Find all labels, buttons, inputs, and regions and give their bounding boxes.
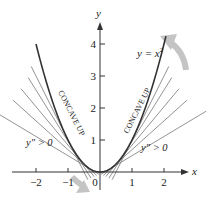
curved-arrow-up-right-icon — [160, 34, 186, 70]
x-tick-label: 2 — [161, 176, 167, 188]
x-tick-label: −1 — [62, 176, 74, 188]
x-tick-label: 0 — [92, 176, 98, 188]
right-second-derivative-label: y″ > 0 — [140, 142, 168, 153]
x-tick-label: −2 — [30, 176, 42, 188]
tangent-lines — [0, 66, 206, 179]
y-tick-label: 4 — [91, 38, 97, 50]
y-tick-label: 3 — [91, 70, 97, 82]
y-ticks: 1234 — [91, 38, 106, 146]
y-axis-arrow-icon — [97, 22, 103, 30]
x-axis-arrow-icon — [181, 169, 189, 175]
x-axis-label: x — [191, 165, 197, 177]
y-tick-label: 2 — [91, 102, 97, 114]
y-axis — [97, 22, 103, 190]
x-ticks: −2−1012 — [30, 168, 167, 188]
left-second-derivative-label: y″ > 0 — [25, 137, 53, 148]
y-axis-label: y — [95, 7, 101, 19]
concavity-diagram: −2−1012 1234 x y y = x2 CONCAVE UP CONCA… — [0, 0, 209, 203]
x-tick-label: 1 — [129, 176, 135, 188]
tangent-line — [112, 66, 169, 179]
function-label: y = x2 — [136, 46, 164, 59]
y-tick-label: 1 — [91, 134, 97, 146]
